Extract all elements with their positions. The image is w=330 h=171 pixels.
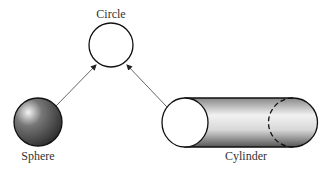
cylinder-shape <box>162 98 318 147</box>
diagram-canvas <box>0 0 330 171</box>
sphere-label: Sphere <box>21 149 54 164</box>
circle-shape <box>89 23 133 67</box>
sphere-shape <box>14 98 62 146</box>
cylinder-label: Cylinder <box>225 149 267 164</box>
arrow-sphere-to-circle <box>55 65 96 107</box>
circle-label: Circle <box>96 7 125 22</box>
arrow-cylinder-to-circle <box>127 65 167 107</box>
